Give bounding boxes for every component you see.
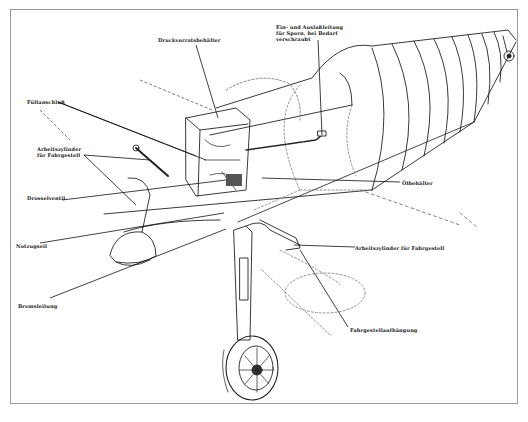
label-notzugseil: Notzugseil [16, 243, 47, 249]
fuselage-frame-7 [482, 34, 490, 104]
wing-leading-edge [104, 190, 372, 214]
leader-ein-auslassleitung [318, 40, 322, 135]
label-druckvorratsbehaelter: Druckvorratsbehälter [158, 37, 221, 43]
leader-oelbehaelter [262, 178, 400, 182]
label-oelbehaelter: Ölbehälter [402, 180, 433, 186]
leader-notzugseil [40, 213, 224, 243]
label-fuellanschluss: Füllanschluß [27, 99, 65, 105]
fuselage-frame-4 [434, 39, 448, 143]
label-bremsleitung: Bremsleitung [18, 303, 57, 309]
main-gear-strut [234, 226, 252, 340]
fuselage-frame-5 [452, 37, 464, 132]
aircraft-cutaway-drawing [0, 0, 528, 422]
fuselage-frame-1 [372, 48, 384, 190]
label-ein-und-auslassleitung: Ein- und Auslaßleitung für Sporn, bei Be… [276, 24, 343, 42]
fuselage-frame-3 [414, 41, 430, 156]
cockpit-outline [226, 78, 300, 120]
leader-fahrgestellaufhaengung [300, 250, 348, 327]
leader-arbeitszylinder-rechts [294, 245, 355, 247]
leader-druckvorratsbehaelter [196, 45, 218, 118]
label-drosselventil: Drosselventil [27, 195, 65, 201]
label-arbeitszylinder-rechts: Arbeitszylinder für Fahrgestell [355, 245, 444, 251]
leader-arbeitszylinder-links [84, 155, 150, 160]
wing-root-line [238, 122, 474, 222]
wheel-well-outline [285, 273, 365, 313]
label-arbeitszylinder-links: Arbeitszylinder für Fahrgestell [37, 146, 81, 158]
fuselage-spine [210, 105, 352, 135]
leader-bremsleitung [50, 229, 226, 298]
fuselage-frame-2 [392, 44, 409, 170]
fuselage-frame-8 [494, 32, 501, 82]
fuselage-frame-6 [468, 35, 477, 122]
left-gear-fairing [110, 232, 156, 263]
label-fahrgestellaufhaengung: Fahrgestellaufhängung [350, 327, 417, 333]
